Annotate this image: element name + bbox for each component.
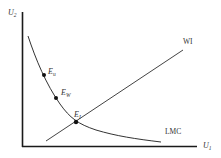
x-axis-label-sub: 1 bbox=[209, 145, 212, 151]
diagram-canvas bbox=[0, 0, 221, 158]
point-eu-label-sub: u bbox=[53, 71, 56, 77]
lmc-curve bbox=[28, 36, 161, 142]
x-axis-label: U1 bbox=[203, 142, 212, 152]
y-axis-label: U2 bbox=[8, 9, 17, 19]
point-eu bbox=[42, 73, 46, 77]
point-ew-label: EW bbox=[61, 89, 70, 99]
wi-line-label: WI bbox=[183, 38, 193, 46]
lmc-curve-label: LMC bbox=[165, 128, 181, 136]
point-ei-label-sub: I bbox=[79, 114, 81, 120]
y-axis-label-sub: 2 bbox=[14, 12, 17, 18]
point-ei-label: EI bbox=[74, 111, 81, 121]
point-eu-label: Eu bbox=[48, 68, 56, 78]
point-ew bbox=[54, 96, 58, 100]
point-ew-label-sub: W bbox=[66, 92, 71, 98]
